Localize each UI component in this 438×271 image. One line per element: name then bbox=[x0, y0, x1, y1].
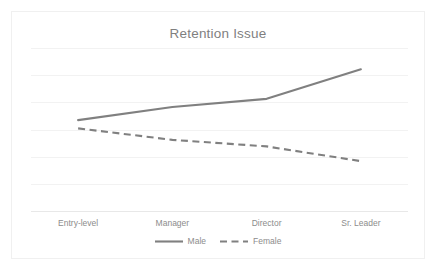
x-tick-label-manager: Manager bbox=[125, 215, 219, 231]
x-axis-labels: Entry-level Manager Director Sr. Leader bbox=[31, 215, 408, 231]
series-line-male bbox=[78, 69, 361, 120]
series-line-female bbox=[78, 128, 361, 161]
plot-area bbox=[31, 48, 408, 212]
x-tick-label-sr-leader: Sr. Leader bbox=[314, 215, 408, 231]
x-tick-label-entry-level: Entry-level bbox=[31, 215, 125, 231]
x-axis-line bbox=[31, 211, 408, 212]
series-plot bbox=[31, 48, 408, 212]
chart-container: Retention Issue Entry-level Manager Dire… bbox=[11, 11, 425, 259]
legend-swatch-solid-icon bbox=[155, 237, 183, 246]
chart-legend: Male Female bbox=[12, 236, 424, 246]
x-tick-label-director: Director bbox=[220, 215, 314, 231]
legend-item-female[interactable]: Female bbox=[220, 236, 281, 246]
chart-title: Retention Issue bbox=[12, 26, 424, 41]
legend-item-male[interactable]: Male bbox=[155, 236, 206, 246]
legend-label-female: Female bbox=[253, 236, 281, 246]
legend-swatch-dashed-icon bbox=[220, 237, 248, 246]
legend-label-male: Male bbox=[188, 236, 206, 246]
